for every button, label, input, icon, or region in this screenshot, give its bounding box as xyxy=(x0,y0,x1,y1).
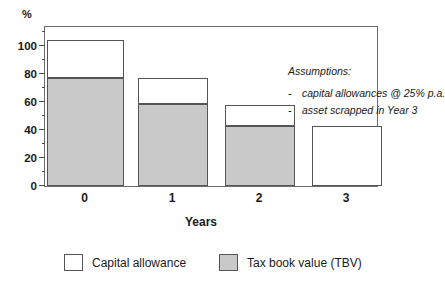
bar-segment-tbv xyxy=(225,126,295,186)
chart-legend: Capital allowanceTax book value (TBV) xyxy=(0,254,402,284)
y-axis-unit-label: % xyxy=(22,9,32,20)
bar-segment-capital-allowance xyxy=(47,40,124,77)
bar-group-year-1 xyxy=(138,78,208,187)
legend-label: Capital allowance xyxy=(92,257,186,269)
y-axis-tick-minor xyxy=(42,143,46,144)
bar-segment-tbv xyxy=(47,78,124,187)
x-axis-title: Years xyxy=(0,215,402,229)
y-axis-tick-minor xyxy=(42,115,46,116)
bullet-marker-icon: - xyxy=(288,102,293,118)
y-axis-tick-label: 40 xyxy=(24,125,37,137)
y-axis-tick-major xyxy=(39,157,45,158)
legend-swatch-icon xyxy=(64,254,83,271)
y-axis-tick-label: 80 xyxy=(24,69,37,81)
assumptions-heading: Assumptions: xyxy=(288,63,445,79)
legend-item-tax-book-value[interactable]: Tax book value (TBV) xyxy=(219,254,362,271)
bullet-marker-icon: - xyxy=(288,85,293,101)
legend-label: Tax book value (TBV) xyxy=(247,257,362,269)
assumptions-annotation: Assumptions: - capital allowances @ 25% … xyxy=(288,63,445,118)
bar-group-year-3 xyxy=(312,126,382,186)
y-axis-tick-major xyxy=(39,45,45,46)
y-axis-tick-minor xyxy=(42,171,46,172)
y-axis-tick-minor xyxy=(42,87,46,88)
x-axis-tick-label-2: 2 xyxy=(256,192,263,204)
bar-segment-capital-allowance xyxy=(138,78,208,105)
bar-segment-tbv xyxy=(138,104,208,186)
y-axis-tick-major xyxy=(39,185,45,186)
y-axis-tick-major xyxy=(39,129,45,130)
assumption-bullet-2: - asset scrapped in Year 3 xyxy=(288,102,445,118)
legend-swatch-icon xyxy=(219,254,238,271)
bar-segment-capital-allowance xyxy=(312,126,382,186)
x-axis-tick-label-1: 1 xyxy=(169,192,176,204)
plot-frame: Assumptions: - capital allowances @ 25% … xyxy=(44,26,378,187)
y-axis-tick-label: 100 xyxy=(18,41,37,53)
y-axis-tick-minor xyxy=(42,31,46,32)
y-axis-tick-major xyxy=(39,73,45,74)
legend-item-capital-allowance[interactable]: Capital allowance xyxy=(64,254,186,271)
assumption-bullet-1: - capital allowances @ 25% p.a. xyxy=(288,85,445,101)
y-axis-tick-label: 0 xyxy=(31,181,37,193)
y-axis-tick-major xyxy=(39,101,45,102)
y-axis-tick-label: 20 xyxy=(24,153,37,165)
x-axis-tick-label-0: 0 xyxy=(81,192,88,204)
y-axis-tick-labels: 020406080100 xyxy=(0,26,37,187)
bar-segment-capital-allowance xyxy=(225,105,295,126)
x-axis-tick-label-3: 3 xyxy=(343,192,350,204)
y-axis-tick-label: 60 xyxy=(24,97,37,109)
assumption-text-1: capital allowances @ 25% p.a. xyxy=(302,85,445,101)
assumption-text-2: asset scrapped in Year 3 xyxy=(302,102,417,118)
bar-group-year-2 xyxy=(225,105,295,186)
bar-group-year-0 xyxy=(47,40,124,186)
y-axis-tick-minor xyxy=(42,59,46,60)
